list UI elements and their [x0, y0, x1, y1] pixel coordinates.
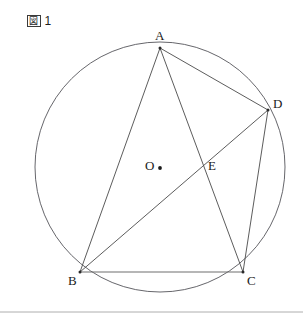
vertex-dot-group — [79, 47, 270, 274]
vertex-dot-d — [267, 109, 270, 112]
vertex-dot-a — [159, 47, 162, 50]
segment-ac — [160, 48, 243, 272]
segment-group — [80, 48, 268, 272]
point-label-b: B — [68, 273, 77, 288]
segment-bd — [80, 110, 268, 272]
vertex-label-group: ABCDEO — [68, 28, 282, 288]
point-label-a: A — [155, 28, 165, 43]
center-point-dot — [158, 166, 162, 170]
point-label-d: D — [273, 96, 282, 111]
vertex-dot-b — [79, 271, 82, 274]
point-label-o: O — [145, 158, 154, 173]
vertex-dot-c — [242, 271, 245, 274]
figure-container: 図1 ABCDEO — [0, 0, 303, 330]
geometry-diagram: ABCDEO — [0, 0, 303, 330]
point-label-c: C — [247, 273, 256, 288]
point-label-e: E — [208, 158, 216, 173]
segment-ad — [160, 48, 268, 110]
